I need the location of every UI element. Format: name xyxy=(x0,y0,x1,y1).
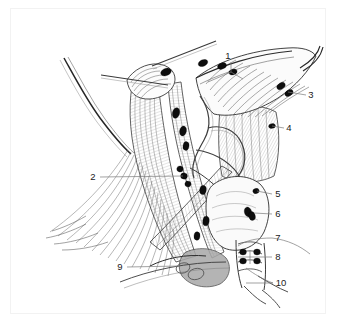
label-1: 1 xyxy=(225,50,230,61)
label-8: 8 xyxy=(275,251,280,262)
label-10: 10 xyxy=(276,277,287,288)
mandible-outline xyxy=(60,57,134,157)
label-3: 3 xyxy=(308,89,313,100)
illustration-body xyxy=(46,41,323,308)
label-2: 2 xyxy=(90,171,95,182)
label-4: 4 xyxy=(286,122,291,133)
label-6: 6 xyxy=(275,208,280,219)
anatomy-figure: 1 2 3 4 5 6 7 8 9 10 xyxy=(0,0,340,331)
anatomy-illustration: 1 2 3 4 5 6 7 8 9 10 xyxy=(0,0,340,331)
trapezius-fiber-tips xyxy=(46,216,108,250)
submandibular-region xyxy=(196,48,316,117)
label-7: 7 xyxy=(275,232,280,243)
label-5: 5 xyxy=(275,188,280,199)
label-9: 9 xyxy=(117,261,122,272)
